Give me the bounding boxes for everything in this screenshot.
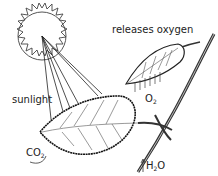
h2o-h: H bbox=[146, 160, 154, 171]
sun-icon bbox=[17, 3, 67, 60]
h2o-label: H2O bbox=[146, 161, 165, 172]
o2-main: O bbox=[145, 93, 153, 104]
large-leaf bbox=[40, 96, 138, 154]
releases-oxygen-label: releases oxygen bbox=[112, 25, 193, 35]
co2-subscript: 2 bbox=[41, 152, 45, 159]
photosynthesis-diagram: releases oxygen sunlight CO2 O2 H2O bbox=[0, 0, 218, 176]
sunlight-label: sunlight bbox=[12, 95, 52, 105]
o2-subscript: 2 bbox=[153, 98, 157, 105]
co2-label: CO2 bbox=[26, 148, 45, 159]
h2o-o: O bbox=[157, 160, 165, 171]
co2-main: CO bbox=[26, 147, 41, 158]
o2-label: O2 bbox=[145, 94, 157, 105]
